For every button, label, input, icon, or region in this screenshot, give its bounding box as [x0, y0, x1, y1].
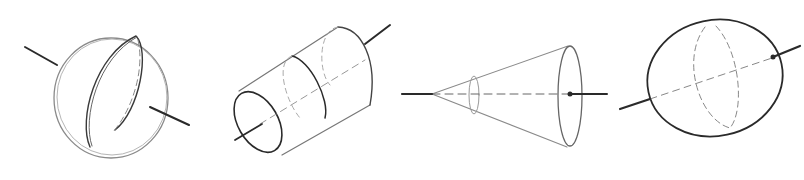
sphere-figure: [25, 36, 189, 158]
ellipsoid-figure: [620, 7, 800, 149]
sketch-canvas: Pencil sketches of basic 3D forms with a…: [0, 0, 804, 180]
cone-figure: [402, 46, 607, 147]
cylinder-figure: [224, 25, 390, 161]
sketch-drawing: [0, 0, 804, 180]
